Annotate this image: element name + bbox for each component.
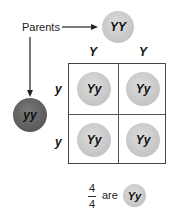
grid-divider-horizontal — [69, 114, 165, 115]
fraction-numerator: 4 — [87, 182, 97, 194]
fraction-bar — [88, 196, 96, 197]
column-allele-1: Y — [89, 45, 97, 59]
row-allele-2: y — [55, 135, 62, 149]
result-word: are — [102, 189, 118, 201]
punnett-cell: Yy — [126, 72, 160, 106]
cell-genotype: Yy — [87, 133, 102, 147]
row-allele-1: y — [55, 82, 62, 96]
result-circle: Yy — [123, 184, 146, 207]
cell-genotype: Yy — [136, 133, 151, 147]
punnett-cell: Yy — [126, 123, 160, 157]
punnett-cell: Yy — [77, 72, 111, 106]
parent-left-genotype: yy — [23, 108, 36, 122]
column-allele-2: Y — [139, 45, 147, 59]
parent-top-genotype: YY — [110, 20, 126, 34]
result-genotype: Yy — [128, 190, 141, 202]
punnett-cell: Yy — [77, 123, 111, 157]
fraction-denominator: 4 — [87, 198, 97, 210]
parent-top-circle: YY — [102, 11, 134, 43]
parent-left-circle: yy — [13, 98, 47, 132]
punnett-square: Yy Yy Yy Yy — [68, 63, 166, 164]
cell-genotype: Yy — [87, 82, 102, 96]
cell-genotype: Yy — [136, 82, 151, 96]
